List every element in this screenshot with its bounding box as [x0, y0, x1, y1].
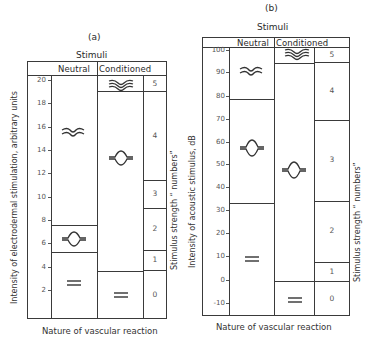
tick: 20: [203, 229, 225, 237]
panel-a-x-axis-label: Nature of vascular reaction: [42, 326, 158, 336]
tick: 14: [24, 146, 46, 154]
vasodilation-bulge-icon: [281, 161, 307, 179]
tick: 40: [203, 183, 225, 191]
no-change-equals-icon: [245, 256, 259, 262]
strength-number: 3: [314, 155, 350, 164]
tick: 20: [24, 76, 46, 84]
vasoconstriction-wave-icon: [61, 127, 85, 141]
panel-b-header-neutral: Neutral: [237, 38, 269, 48]
tick: 60: [203, 138, 225, 146]
strength-number: 0: [143, 290, 167, 299]
tick: 50: [203, 160, 225, 168]
strength-number: 0: [314, 294, 350, 303]
tick: 2: [24, 286, 46, 294]
panel-a-label: (a): [88, 32, 101, 42]
strength-number: 5: [143, 79, 167, 88]
panel-a-header-neutral: Neutral: [58, 64, 90, 74]
panel-b-header-conditioned: Conditioned: [276, 38, 328, 48]
strength-number: 2: [143, 224, 167, 233]
vasoconstriction-wave-icon: [239, 66, 263, 80]
panel-b-stimuli-title: Stimuli: [257, 22, 288, 32]
tick: 0: [203, 276, 225, 284]
no-change-equals-icon: [114, 292, 128, 298]
panel-b-right-axis-label: Stimulus strength “ numbers”: [353, 162, 362, 282]
panel-b-y-axis-label: Intensity of acoustic stimulus, dB: [188, 135, 197, 268]
vasoconstriction-wave-icon: [108, 80, 134, 91]
tick: 4: [24, 263, 46, 271]
tick: 80: [203, 92, 225, 100]
tick: 10: [203, 252, 225, 260]
strength-number: 5: [314, 50, 350, 59]
strength-number: 3: [143, 189, 167, 198]
panel-b-label: (b): [265, 3, 278, 13]
tick: 10: [24, 193, 46, 201]
strength-number: 2: [314, 226, 350, 235]
vasodilation-bulge-icon: [61, 231, 87, 247]
strength-number: 4: [143, 131, 167, 140]
vasodilation-bulge-icon: [239, 139, 265, 157]
panel-a-y-axis-label: Intensity of electrodermal stimulation, …: [10, 91, 19, 304]
tick: 18: [24, 99, 46, 107]
vasoconstriction-wave-icon: [284, 49, 310, 60]
strength-number: 1: [143, 255, 167, 264]
vasodilation-bulge-icon: [108, 150, 134, 166]
tick: 100: [203, 46, 225, 54]
tick: 70: [203, 115, 225, 123]
panel-b-x-axis-label: Nature of vascular reaction: [216, 322, 332, 332]
panel-a-right-axis-label: Stimulus strength “ numbers”: [170, 150, 179, 270]
tick: 90: [203, 68, 225, 76]
strength-number: 1: [314, 267, 350, 276]
panel-a-header-conditioned: Conditioned: [99, 64, 151, 74]
tick: 6: [24, 239, 46, 247]
tick: 30: [203, 206, 225, 214]
tick: 8: [24, 216, 46, 224]
tick: 12: [24, 169, 46, 177]
tick: 16: [24, 123, 46, 131]
strength-number: 4: [314, 86, 350, 95]
no-change-equals-icon: [67, 280, 81, 286]
no-change-equals-icon: [288, 297, 302, 303]
tick: -10: [203, 299, 225, 307]
panel-a-stimuli-title: Stimuli: [76, 50, 107, 60]
